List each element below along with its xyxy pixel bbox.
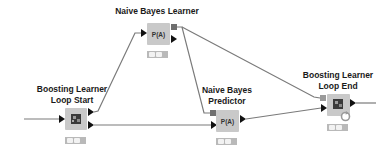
label-line: Boosting Learner [303, 70, 373, 81]
naive-bayes-predictor-node[interactable]: P(A) [216, 110, 239, 132]
loop-end-status [327, 124, 348, 131]
naive-bayes-learner-node[interactable]: P(A) [147, 23, 170, 45]
predictor-model-in-port[interactable] [210, 110, 216, 116]
naive-bayes-predictor-status [216, 138, 237, 145]
status-light [67, 138, 73, 143]
loop-end-label: Boosting Learner Loop End [303, 70, 373, 92]
status-light [149, 52, 155, 57]
loop-start-icon [65, 108, 87, 130]
loop-start-label: Boosting Learner Loop Start [37, 84, 107, 106]
label-line: Naive Bayes [202, 85, 252, 96]
label-line: Naive Bayes Learner [115, 6, 199, 17]
status-light [156, 52, 162, 57]
status-light [225, 139, 231, 144]
loop-start-out2-port [88, 121, 94, 129]
probability-icon: P(A) [147, 23, 170, 45]
probability-icon: P(A) [216, 110, 239, 132]
naive-bayes-learner-label: Naive Bayes Learner [115, 6, 199, 17]
loop-end-model-in-port[interactable] [320, 95, 326, 101]
label-line: Boosting Learner [37, 84, 107, 95]
loop-start-status [65, 137, 86, 144]
connection-predictor-to-loop-end[interactable] [246, 108, 321, 119]
naive-bayes-predictor-label: Naive Bayes Predictor [202, 85, 252, 107]
naive-bayes-learner-status [147, 51, 168, 58]
status-light [74, 138, 80, 143]
loop-refresh-icon [340, 111, 351, 122]
status-light [218, 139, 224, 144]
label-line: Loop Start [37, 95, 107, 106]
loop-start-out1-port [88, 108, 94, 116]
label-line: Predictor [202, 96, 252, 107]
workflow-canvas[interactable]: Naive Bayes Learner P(A) Boosting Learne… [0, 0, 390, 152]
label-line: Loop End [303, 81, 373, 92]
loop-start-node[interactable] [65, 108, 87, 130]
predictor-data-out-port [240, 115, 246, 123]
loop-end-data-out-port [350, 99, 356, 107]
learner-model-out-port[interactable] [171, 24, 177, 30]
status-light [329, 125, 335, 130]
learner-data-out-port [171, 35, 177, 43]
status-light [336, 125, 342, 130]
